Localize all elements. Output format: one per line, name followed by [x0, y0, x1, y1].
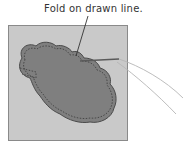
thread-upper — [119, 59, 183, 98]
sewing-diagram — [0, 0, 187, 148]
